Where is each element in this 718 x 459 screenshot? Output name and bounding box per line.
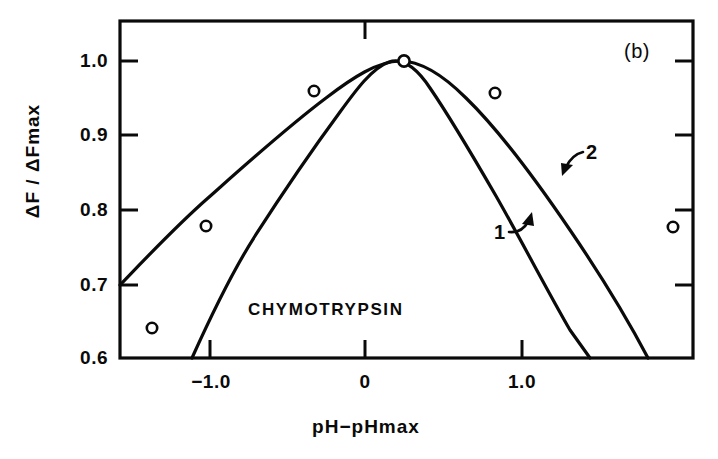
y-tick-label-0.8: 0.8 bbox=[46, 199, 108, 221]
figure-panel-b: 1.0 0.9 0.8 0.7 0.6 −1.0 0 1.0 ΔF / ΔFma… bbox=[0, 0, 718, 459]
y-tick-label-0.6: 0.6 bbox=[46, 347, 108, 369]
data-point bbox=[201, 221, 211, 231]
y-tick-label-1.0: 1.0 bbox=[46, 50, 108, 72]
x-tick-label-1.0: 1.0 bbox=[492, 371, 552, 393]
y-axis-label: ΔF / ΔFmax bbox=[22, 66, 44, 256]
x-axis-ticks bbox=[210, 340, 522, 358]
panel-label: (b) bbox=[624, 40, 650, 63]
sample-annotation: CHYMOTRYPSIN bbox=[248, 300, 404, 320]
y-tick-label-0.7: 0.7 bbox=[46, 274, 108, 296]
curve-2-leader bbox=[561, 152, 583, 176]
axis-frame bbox=[120, 21, 693, 358]
y-axis-ticks bbox=[120, 61, 138, 285]
x-axis-label: pH−pHmax bbox=[276, 416, 456, 438]
x-tick-label-minus-1.0: −1.0 bbox=[176, 371, 246, 393]
curve-label-1: 1 bbox=[494, 221, 505, 244]
data-point bbox=[490, 88, 500, 98]
data-point bbox=[147, 323, 157, 333]
data-point bbox=[398, 55, 409, 66]
data-point bbox=[668, 222, 678, 232]
y-axis-ticks-right bbox=[675, 61, 693, 285]
curve-label-2: 2 bbox=[586, 141, 597, 164]
data-points bbox=[147, 55, 678, 333]
x-tick-label-0: 0 bbox=[337, 371, 393, 393]
y-tick-label-0.9: 0.9 bbox=[46, 124, 108, 146]
data-point bbox=[309, 86, 319, 96]
